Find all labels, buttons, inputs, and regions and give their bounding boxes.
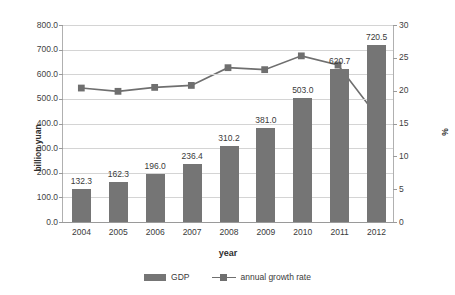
y-axis-tick-label-left: 400.0 bbox=[37, 119, 58, 128]
plot-area: 0.0100.0200.0300.0400.0500.0600.0700.080… bbox=[62, 25, 394, 222]
y-axis-tick-label-left: 300.0 bbox=[37, 144, 58, 153]
y-axis-tick-right bbox=[393, 124, 397, 125]
y-axis-tick-left bbox=[59, 74, 63, 75]
bar-value-label: 381.0 bbox=[243, 116, 289, 125]
y-axis-tick-label-right: 20 bbox=[399, 86, 408, 95]
legend-item-gdp[interactable]: GDP bbox=[144, 272, 189, 282]
y-axis-tick-label-right: 0 bbox=[399, 218, 404, 227]
y-axis-title-right: % bbox=[440, 128, 450, 136]
y-axis-tick-right bbox=[393, 156, 397, 157]
line-data-point-marker[interactable] bbox=[225, 64, 232, 71]
chart-legend: GDP annual growth rate bbox=[0, 272, 455, 282]
bar[interactable] bbox=[220, 146, 239, 222]
bar-value-label: 162.3 bbox=[95, 170, 141, 179]
y-axis-tick-label-left: 0.0 bbox=[46, 218, 58, 227]
bar-value-label: 236.4 bbox=[169, 152, 215, 161]
line-data-point-marker[interactable] bbox=[298, 52, 305, 59]
chart-container: billion yuan % 0.0100.0200.0300.0400.050… bbox=[0, 0, 455, 295]
gridline bbox=[63, 50, 393, 51]
x-axis-title: year bbox=[62, 248, 394, 258]
line-marker-swatch-icon bbox=[212, 273, 236, 282]
bar-value-label: 503.0 bbox=[280, 86, 326, 95]
y-axis-tick-left bbox=[59, 197, 63, 198]
y-axis-tick-left bbox=[59, 173, 63, 174]
bar[interactable] bbox=[330, 69, 349, 222]
y-axis-tick-label-left: 500.0 bbox=[37, 94, 58, 103]
line-data-point-marker[interactable] bbox=[78, 85, 85, 92]
y-axis-tick-right bbox=[393, 58, 397, 59]
y-axis-tick-label-left: 100.0 bbox=[37, 193, 58, 202]
y-axis-tick-right bbox=[393, 222, 397, 223]
x-axis-tick-label: 2012 bbox=[354, 228, 400, 237]
line-data-point-marker[interactable] bbox=[188, 82, 195, 89]
y-axis-tick-left bbox=[59, 99, 63, 100]
legend-label-annual-growth-rate: annual growth rate bbox=[241, 272, 311, 282]
bar[interactable] bbox=[72, 189, 91, 222]
y-axis-tick-label-right: 10 bbox=[399, 152, 408, 161]
bar-value-label: 310.2 bbox=[206, 134, 252, 143]
y-axis-tick-label-left: 700.0 bbox=[37, 45, 58, 54]
legend-item-annual-growth-rate[interactable]: annual growth rate bbox=[212, 272, 311, 282]
y-axis-tick-label-left: 200.0 bbox=[37, 168, 58, 177]
bar[interactable] bbox=[146, 174, 165, 222]
bar[interactable] bbox=[183, 164, 202, 222]
y-axis-tick-left bbox=[59, 25, 63, 26]
bar-value-label: 620.7 bbox=[317, 57, 363, 66]
y-axis-tick-left bbox=[59, 222, 63, 223]
y-axis-tick-label-left: 800.0 bbox=[37, 21, 58, 30]
bar[interactable] bbox=[293, 98, 312, 222]
y-axis-tick-label-right: 25 bbox=[399, 53, 408, 62]
gridline bbox=[63, 222, 393, 223]
gridline bbox=[63, 25, 393, 26]
line-data-point-marker[interactable] bbox=[115, 88, 122, 95]
y-axis-tick-right bbox=[393, 25, 397, 26]
bar[interactable] bbox=[367, 45, 386, 222]
bar[interactable] bbox=[109, 182, 128, 222]
bar-value-label: 720.5 bbox=[354, 33, 400, 42]
y-axis-tick-left bbox=[59, 50, 63, 51]
y-axis-tick-label-left: 600.0 bbox=[37, 70, 58, 79]
legend-label-gdp: GDP bbox=[171, 272, 189, 282]
bar-value-label: 132.3 bbox=[58, 177, 104, 186]
y-axis-tick-label-right: 30 bbox=[399, 21, 408, 30]
y-axis-tick-label-right: 5 bbox=[399, 185, 404, 194]
y-axis-tick-label-right: 15 bbox=[399, 119, 408, 128]
line-data-point-marker[interactable] bbox=[151, 84, 158, 91]
bar[interactable] bbox=[256, 128, 275, 222]
bar-swatch-icon bbox=[144, 274, 166, 281]
y-axis-tick-left bbox=[59, 124, 63, 125]
bar-value-label: 196.0 bbox=[132, 162, 178, 171]
y-axis-tick-right bbox=[393, 91, 397, 92]
y-axis-tick-left bbox=[59, 148, 63, 149]
line-data-point-marker[interactable] bbox=[261, 66, 268, 73]
y-axis-tick-right bbox=[393, 189, 397, 190]
